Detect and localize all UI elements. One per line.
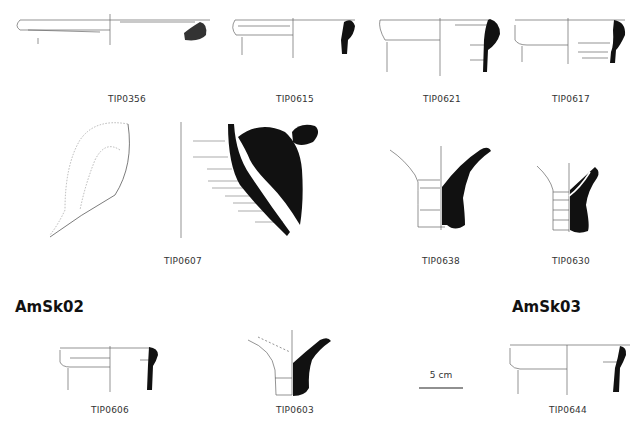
profile-tip0603	[248, 330, 292, 395]
tip0644-section	[613, 346, 626, 392]
sherd-label-tip0638: TIP0638	[422, 256, 460, 266]
sherd-label-tip0356: TIP0356	[108, 94, 146, 104]
sherd-label-tip0617: TIP0617	[552, 94, 590, 104]
scale-bar-label: 5 cm	[430, 370, 452, 380]
tip0615-section	[341, 20, 355, 54]
sherd-label-tip0615: TIP0615	[276, 94, 314, 104]
profile-tip0630	[537, 163, 569, 232]
tip0607-fragment	[292, 125, 318, 145]
tip0606-section	[147, 347, 158, 390]
tip0603-section	[293, 338, 331, 396]
sherd-label-tip0607: TIP0607	[164, 256, 202, 266]
profile-tip0617	[515, 18, 625, 64]
tip0617-section	[610, 20, 625, 63]
profile-tip0606	[60, 346, 150, 392]
tip0638-section	[442, 148, 491, 229]
profile-tip0607-outline	[50, 124, 129, 237]
profile-tip0644	[510, 345, 630, 395]
profile-tip0615	[233, 18, 355, 58]
profile-tip0356	[17, 14, 210, 45]
sherd-label-tip0630: TIP0630	[552, 256, 590, 266]
tip0621-section	[483, 19, 500, 72]
sherd-label-tip0606: TIP0606	[91, 405, 129, 415]
tip0630-section	[570, 167, 599, 233]
sherd-label-tip0621: TIP0621	[423, 94, 461, 104]
profile-tip0607-exterior	[50, 123, 128, 235]
profile-tip0621	[380, 18, 490, 76]
sherd-label-tip0644: TIP0644	[549, 405, 587, 415]
pottery-profiles-figure	[0, 0, 639, 432]
group-title-amsk02: AmSk02	[15, 298, 84, 316]
tip0356-section	[184, 22, 206, 40]
group-title-amsk03: AmSk03	[512, 298, 581, 316]
sherd-label-tip0603: TIP0603	[276, 405, 314, 415]
profile-sections	[147, 19, 626, 396]
profile-tip0638	[390, 146, 445, 230]
